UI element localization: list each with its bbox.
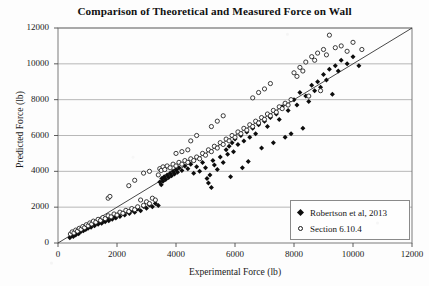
y-tick-label: 4000 bbox=[1, 165, 49, 175]
filled-diamond-icon bbox=[297, 209, 306, 218]
y-tick-label: 8000 bbox=[1, 94, 49, 104]
y-tick-label: 0 bbox=[1, 237, 49, 247]
y-tick-label: 6000 bbox=[1, 130, 49, 140]
x-tick-label: 12000 bbox=[387, 249, 429, 259]
legend-item-section: Section 6.10.4 bbox=[297, 221, 409, 237]
open-circle-icon bbox=[297, 225, 306, 234]
figure-container: Comparison of Theoretical and Measured F… bbox=[0, 0, 429, 286]
y-tick-label: 10000 bbox=[1, 58, 49, 68]
legend-label-section: Section 6.10.4 bbox=[310, 224, 362, 234]
x-tick-label: 10000 bbox=[328, 249, 378, 259]
plot-area bbox=[0, 0, 429, 286]
legend-item-robertson: Robertson et al, 2013 bbox=[297, 205, 409, 221]
chart-legend: Robertson et al, 2013 Section 6.10.4 bbox=[290, 200, 410, 240]
y-tick-label: 2000 bbox=[1, 201, 49, 211]
legend-label-robertson: Robertson et al, 2013 bbox=[310, 208, 387, 218]
x-tick-label: 8000 bbox=[269, 249, 319, 259]
x-tick-label: 6000 bbox=[210, 249, 260, 259]
x-tick-label: 0 bbox=[33, 249, 83, 259]
y-tick-label: 12000 bbox=[1, 22, 49, 32]
x-tick-label: 2000 bbox=[92, 249, 142, 259]
x-tick-label: 4000 bbox=[151, 249, 201, 259]
